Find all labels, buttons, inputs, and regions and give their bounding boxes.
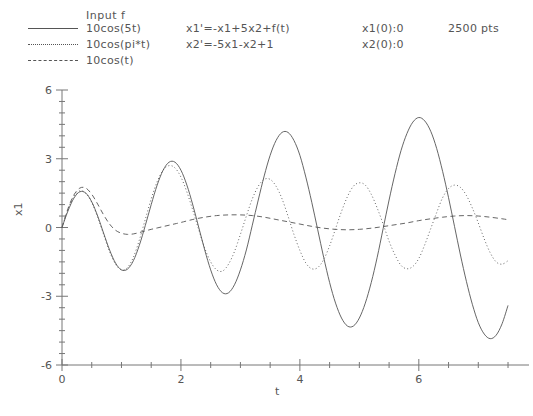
legend-header-block: Input f 10cos(5t) 10cos(pi*t) 10cos(t) x… — [0, 0, 533, 80]
x-axis-title: t — [275, 385, 279, 398]
equation-line-2: x2'=-5x1-x2+1 — [186, 38, 274, 51]
initial-condition-x1: x1(0):0 — [362, 22, 404, 35]
series-line-1 — [62, 166, 508, 272]
x-axis — [62, 359, 529, 371]
x-tick-label: 6 — [415, 373, 422, 386]
tick-label-group: -6-30360246 — [41, 84, 422, 386]
y-tick-label: 6 — [45, 84, 52, 97]
series-group — [62, 117, 508, 338]
y-tick-label: 0 — [45, 222, 52, 235]
legend-swatch-dotted-icon — [28, 44, 78, 45]
legend-swatch-solid-icon — [28, 28, 78, 29]
series-line-0 — [62, 117, 508, 338]
y-tick-label: -6 — [41, 359, 52, 372]
legend-label-0: 10cos(5t) — [86, 22, 141, 35]
x-tick-label: 4 — [296, 373, 303, 386]
y-tick-label: 3 — [45, 153, 52, 166]
series-line-2 — [62, 187, 508, 234]
legend-swatch-dashed-icon — [28, 60, 78, 61]
points-count-label: 2500 pts — [448, 22, 499, 35]
initial-condition-x2: x2(0):0 — [362, 38, 404, 51]
legend-title: Input f — [86, 9, 125, 22]
x-tick-label: 2 — [177, 373, 184, 386]
equation-line-1: x1'=-x1+5x2+f(t) — [186, 22, 290, 35]
y-tick-label: -3 — [41, 290, 52, 303]
legend-label-2: 10cos(t) — [86, 54, 134, 67]
plot-root: Input f 10cos(5t) 10cos(pi*t) 10cos(t) x… — [0, 0, 533, 416]
x-tick-label: 0 — [59, 373, 66, 386]
y-axis-title: x1 — [12, 202, 25, 216]
legend-label-1: 10cos(pi*t) — [86, 38, 150, 51]
